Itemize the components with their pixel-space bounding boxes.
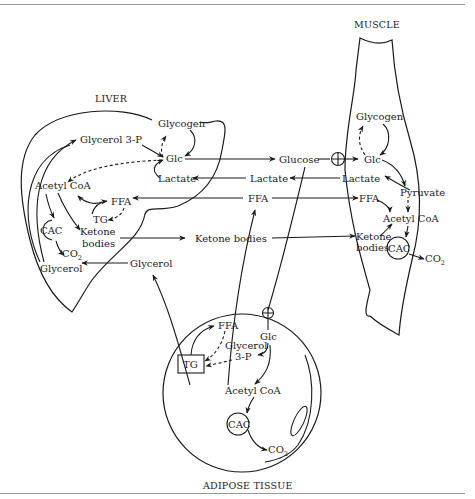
adipose-ffa: FFA: [218, 320, 239, 331]
adipose-co2: CO2: [268, 444, 288, 458]
blood-lactate: Lactate: [250, 173, 288, 184]
liver-glc: Glc: [166, 153, 183, 164]
muscle-group: MUSCLE Glycogen Glc Lactate Pyruvate FFA…: [342, 19, 445, 335]
liver-lactate: Lactate: [158, 173, 196, 184]
muscle-ketone-2: bodies: [356, 242, 389, 253]
muscle-label: MUSCLE: [354, 19, 400, 30]
muscle-ketone-1: Ketone: [356, 231, 392, 242]
liver-ffa: FFA: [111, 196, 132, 207]
capillary-icon: [288, 404, 311, 437]
blood-group: Glucose Lactate FFA Ketone bodies Glycer…: [82, 153, 358, 386]
blood-ketone-bodies: Ketone bodies: [195, 233, 267, 244]
adipose-glycerol-3p-2: 3-P: [235, 351, 252, 362]
blood-glycerol: Glycerol: [130, 258, 172, 269]
adipose-glycerol-3p-1: Glycerol: [225, 340, 267, 351]
metabolism-diagram: LIVER Glycogen Glycerol 3-P Glc Lactate …: [0, 0, 475, 499]
muscle-cac: CAC: [388, 243, 411, 254]
liver-group: LIVER Glycogen Glycerol 3-P Glc Lactate …: [21, 93, 225, 312]
muscle-glc: Glc: [364, 154, 381, 165]
adipose-tg: TG: [183, 359, 198, 370]
liver-ketone-2: bodies: [82, 238, 115, 249]
liver-label: LIVER: [95, 93, 128, 104]
liver-glycogen: Glycogen: [158, 118, 206, 129]
adipose-label: ADIPOSE TISSUE: [202, 480, 293, 491]
adipose-acetyl-coa: Acetyl CoA: [224, 385, 281, 396]
adipose-cac: CAC: [228, 419, 251, 430]
liver-co2: CO2: [62, 248, 82, 262]
blood-ffa: FFA: [248, 193, 269, 204]
liver-glycerol: Glycerol: [40, 263, 82, 274]
liver-ketone-1: Ketone: [80, 226, 116, 237]
blood-glucose: Glucose: [279, 154, 319, 165]
muscle-glycogen: Glycogen: [356, 111, 404, 122]
muscle-acetyl-coa: Acetyl CoA: [382, 213, 439, 224]
liver-tg: TG: [93, 214, 108, 225]
muscle-lactate: Lactate: [342, 173, 380, 184]
liver-acetyl-coa: Acetyl CoA: [34, 180, 91, 191]
liver-glycerol-3p: Glycerol 3-P: [80, 134, 142, 145]
adipose-group: ADIPOSE TISSUE FFA Glc Glycerol 3-P TG A…: [163, 308, 321, 492]
muscle-ffa: FFA: [359, 193, 380, 204]
muscle-co2: CO2: [425, 253, 445, 267]
